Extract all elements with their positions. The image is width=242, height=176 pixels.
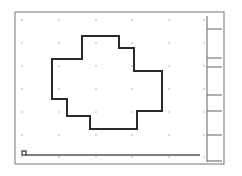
grid-dot: [58, 111, 59, 112]
grid-dot: [203, 42, 204, 43]
grid-dot: [203, 156, 204, 157]
grid-dot: [21, 42, 22, 43]
grid-dot: [58, 65, 59, 66]
grid-dot: [21, 19, 22, 20]
grid-dot: [95, 65, 96, 66]
grid-dot: [58, 134, 59, 135]
grid-dot: [203, 19, 204, 20]
grid-dot: [95, 88, 96, 89]
grid-dot: [95, 19, 96, 20]
grid-dot: [168, 134, 169, 135]
grid-dot: [58, 88, 59, 89]
dot-grid: [21, 19, 204, 157]
grid-dot: [131, 65, 132, 66]
grid-dot: [203, 134, 204, 135]
grid-dot: [203, 88, 204, 89]
side-ruler-panel[interactable]: [207, 16, 222, 162]
grid-dot: [58, 156, 59, 157]
grid-dot: [95, 111, 96, 112]
grid-dot: [21, 65, 22, 66]
grid-dot: [168, 19, 169, 20]
grid-dot: [95, 134, 96, 135]
grid-dot: [131, 134, 132, 135]
bottom-slider[interactable]: [22, 151, 200, 155]
grid-dot: [203, 111, 204, 112]
grid-dot: [168, 156, 169, 157]
grid-dot: [168, 42, 169, 43]
grid-dot: [168, 88, 169, 89]
grid-dot: [95, 156, 96, 157]
grid-dot: [21, 156, 22, 157]
canvas-frame: [15, 12, 224, 164]
grid-dot: [58, 42, 59, 43]
grid-dot: [131, 19, 132, 20]
grid-dot: [168, 65, 169, 66]
grid-dot: [21, 88, 22, 89]
grid-dot: [58, 19, 59, 20]
grid-dot: [95, 42, 96, 43]
grid-dot: [203, 65, 204, 66]
grid-dot: [131, 42, 132, 43]
grid-dot: [131, 156, 132, 157]
grid-dot: [168, 111, 169, 112]
grid-dot: [131, 88, 132, 89]
slider-handle-icon[interactable]: [22, 151, 26, 155]
grid-dot: [21, 134, 22, 135]
grid-dot: [131, 111, 132, 112]
drawing-canvas[interactable]: [0, 0, 242, 176]
cross-polygon-shape[interactable]: [52, 36, 162, 129]
grid-dot: [21, 111, 22, 112]
